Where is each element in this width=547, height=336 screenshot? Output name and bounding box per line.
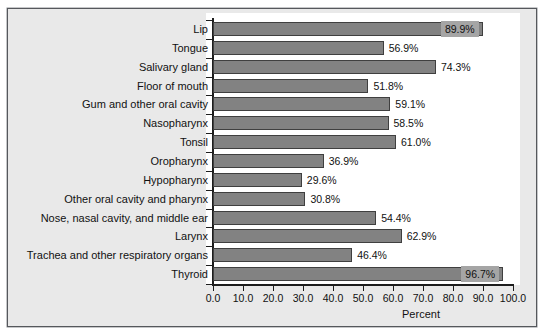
x-axis-tick <box>363 286 364 291</box>
category-label: Lip <box>193 20 208 39</box>
y-axis-tick <box>206 114 213 115</box>
bar-value-label: 58.5% <box>389 115 424 131</box>
bar-row: 58.5% <box>213 114 513 133</box>
y-axis-tick <box>206 227 213 228</box>
category-label: Nose, nasal cavity, and middle ear <box>41 209 208 228</box>
bar[interactable] <box>213 173 302 187</box>
x-axis-tick <box>213 286 214 291</box>
bar-row: 30.8% <box>213 190 513 209</box>
bar-row: 96.7% <box>213 265 513 284</box>
bar-row: 29.6% <box>213 171 513 190</box>
y-axis-tick <box>206 58 213 59</box>
bar-row: 36.9% <box>213 152 513 171</box>
x-axis-tick <box>243 286 244 291</box>
x-axis-title-text: Percent <box>402 308 440 320</box>
bar-row: 61.0% <box>213 133 513 152</box>
bar-row: 56.9% <box>213 39 513 58</box>
x-axis-tick-label: 20.0 <box>263 292 283 304</box>
x-axis-tick-label: 10.0 <box>233 292 253 304</box>
y-axis-tick <box>206 95 213 96</box>
y-axis-tick <box>206 20 213 21</box>
x-axis-tick <box>423 286 424 291</box>
bar-value-label: 62.9% <box>402 228 437 244</box>
bar-value-label: 89.9% <box>441 21 479 37</box>
x-axis-tick <box>513 286 514 291</box>
plot-area: 89.9%56.9%74.3%51.8%59.1%58.5%61.0%36.9%… <box>213 20 513 284</box>
category-label: Salivary gland <box>139 58 208 77</box>
bar-value-label: 59.1% <box>390 96 425 112</box>
category-label: Thyroid <box>171 265 208 284</box>
x-axis-tick <box>333 286 334 291</box>
bar-value-label: 96.7% <box>461 266 499 282</box>
chart-panel: LipTongueSalivary glandFloor of mouthGum… <box>7 8 537 327</box>
category-label: Floor of mouth <box>137 77 208 96</box>
y-axis-tick <box>206 284 213 285</box>
bar-row: 46.4% <box>213 246 513 265</box>
bar[interactable] <box>213 229 402 243</box>
y-axis-tick <box>206 152 213 153</box>
bar[interactable] <box>213 116 389 130</box>
category-label: Nasopharynx <box>143 114 208 133</box>
y-axis-tick <box>206 39 213 40</box>
category-label: Other oral cavity and pharynx <box>64 190 208 209</box>
bar[interactable] <box>213 97 390 111</box>
bar-value-label: 29.6% <box>302 172 337 188</box>
category-label: Hypopharynx <box>143 171 208 190</box>
y-axis-tick <box>206 265 213 266</box>
bar[interactable] <box>213 248 352 262</box>
bar-value-label: 74.3% <box>436 59 471 75</box>
bar-value-label: 46.4% <box>352 247 387 263</box>
category-label: Oropharynx <box>151 152 208 171</box>
bar-row: 74.3% <box>213 58 513 77</box>
bar[interactable] <box>213 60 436 74</box>
y-axis-tick <box>206 190 213 191</box>
x-axis-tick-label: 0.0 <box>206 292 221 304</box>
x-axis-tick <box>453 286 454 291</box>
bar-row: 62.9% <box>213 227 513 246</box>
category-label: Larynx <box>175 227 208 246</box>
x-axis-tick-label: 90.0 <box>473 292 493 304</box>
bar-row: 51.8% <box>213 77 513 96</box>
y-axis-tick <box>206 246 213 247</box>
bar[interactable] <box>213 154 324 168</box>
x-axis-tick-label: 30.0 <box>293 292 313 304</box>
bar-row: 54.4% <box>213 209 513 228</box>
x-axis-tick-label: 100.0 <box>500 292 526 304</box>
bar-value-label: 54.4% <box>376 210 411 226</box>
bar-row: 89.9% <box>213 20 513 39</box>
category-axis-labels: LipTongueSalivary glandFloor of mouthGum… <box>18 20 208 284</box>
x-axis-tick <box>303 286 304 291</box>
y-axis-tick <box>206 209 213 210</box>
category-label: Tonsil <box>180 133 208 152</box>
category-label: Tongue <box>172 39 208 58</box>
bar[interactable] <box>213 79 368 93</box>
y-axis-tick <box>206 171 213 172</box>
bar[interactable] <box>213 267 503 281</box>
x-axis-tick-label: 50.0 <box>353 292 373 304</box>
x-axis-tick <box>483 286 484 291</box>
x-axis-tick <box>393 286 394 291</box>
x-axis-tick-label: 40.0 <box>323 292 343 304</box>
x-axis-tick-label: 80.0 <box>443 292 463 304</box>
y-axis-tick <box>206 77 213 78</box>
x-axis-title: Percent <box>8 308 538 320</box>
bar[interactable] <box>213 135 396 149</box>
bar[interactable] <box>213 192 305 206</box>
bar-value-label: 30.8% <box>305 191 340 207</box>
bar-value-label: 51.8% <box>368 78 403 94</box>
bar[interactable] <box>213 41 384 55</box>
bar-value-label: 36.9% <box>324 153 359 169</box>
bar[interactable] <box>213 211 376 225</box>
x-axis-tick-label: 60.0 <box>383 292 403 304</box>
category-label: Gum and other oral cavity <box>82 95 208 114</box>
x-axis-tick <box>273 286 274 291</box>
x-axis-tick-label: 70.0 <box>413 292 433 304</box>
bar-row: 59.1% <box>213 95 513 114</box>
category-label: Trachea and other respiratory organs <box>27 246 208 265</box>
bar-value-label: 56.9% <box>384 40 419 56</box>
y-axis-tick <box>206 133 213 134</box>
bar-value-label: 61.0% <box>396 134 431 150</box>
